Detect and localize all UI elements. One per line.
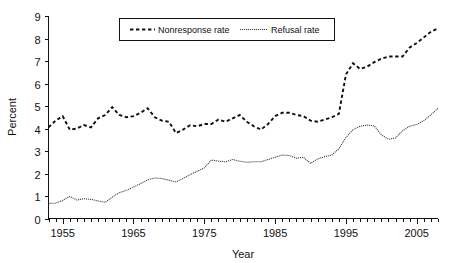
y-tick-label-7: 7 (34, 56, 40, 68)
y-axis-title: Percent (6, 98, 18, 136)
x-axis-minor-ticks (50, 219, 439, 224)
y-tick-label-3: 3 (34, 146, 40, 158)
legend-label-nonresponse-rate: Nonresponse rate (158, 25, 230, 35)
x-axis-tick-labels: 195519651975198519952005 (50, 227, 429, 239)
y-tick-label-8: 8 (34, 34, 40, 46)
x-tick-label-1965: 1965 (121, 227, 145, 239)
x-tick-label-1995: 1995 (334, 227, 358, 239)
x-axis-title: Year (232, 248, 255, 260)
series-line-refusal-rate (49, 108, 439, 203)
legend-label-refusal-rate: Refusal rate (271, 25, 320, 35)
chart-figure: 0123456789 195519651975198519952005 Perc… (0, 0, 453, 263)
y-tick-label-6: 6 (34, 79, 40, 91)
x-tick-label-1975: 1975 (192, 227, 216, 239)
y-tick-label-9: 9 (34, 11, 40, 23)
x-tick-label-1985: 1985 (263, 227, 287, 239)
y-tick-label-4: 4 (34, 124, 40, 136)
y-tick-label-5: 5 (34, 101, 40, 113)
y-tick-label-0: 0 (34, 214, 40, 226)
line-chart-canvas: 0123456789 195519651975198519952005 Perc… (0, 0, 453, 263)
y-axis-tick-labels: 0123456789 (34, 11, 40, 226)
x-tick-label-2005: 2005 (405, 227, 429, 239)
chart-legend: Nonresponse rate Refusal rate (120, 19, 335, 41)
series-line-nonresponse-rate (49, 28, 439, 133)
x-tick-label-1955: 1955 (50, 227, 74, 239)
y-tick-label-1: 1 (34, 191, 40, 203)
y-tick-label-2: 2 (34, 169, 40, 181)
y-axis-ticks (45, 17, 49, 220)
